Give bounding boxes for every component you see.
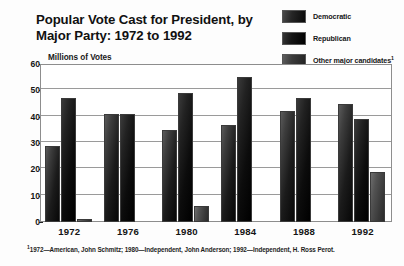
bar-group — [40, 64, 99, 222]
footnote-text: 1972—American, John Schmitz; 1980—Indepe… — [30, 246, 335, 253]
bar — [221, 125, 236, 222]
y-tick-label: 30 — [16, 138, 40, 148]
y-tick-label: 0 — [16, 217, 40, 227]
chart-title-line1: Popular Vote Cast for President, by — [36, 12, 266, 28]
title-block: Popular Vote Cast for President, by Majo… — [36, 12, 266, 43]
chart-figure: Popular Vote Cast for President, by Majo… — [0, 0, 404, 266]
bar — [296, 98, 311, 222]
bar-group — [333, 64, 392, 222]
bar-group — [275, 64, 334, 222]
bar-group — [99, 64, 158, 222]
y-axis-title: Millions of Votes — [48, 53, 112, 62]
bar — [77, 219, 92, 222]
bar — [104, 114, 119, 222]
bar-group — [157, 64, 216, 222]
plot-area-wrapper — [40, 64, 392, 222]
chart-footnote: 11972—American, John Schmitz; 1980—Indep… — [27, 244, 335, 253]
bar — [338, 104, 353, 223]
x-tick-label: 1980 — [176, 226, 198, 237]
legend-item-democratic: Democratic — [282, 8, 402, 24]
legend-swatch-democratic — [282, 10, 306, 23]
bar — [61, 98, 76, 222]
bar-group — [216, 64, 275, 222]
x-tick-label: 1992 — [352, 226, 374, 237]
x-tick-label: 1972 — [58, 226, 80, 237]
bar — [45, 146, 60, 222]
y-tick-label: 50 — [16, 85, 40, 95]
x-tick-label: 1988 — [293, 226, 315, 237]
bar — [178, 93, 193, 222]
y-tick-mark — [39, 222, 43, 223]
bar — [120, 114, 135, 222]
legend-label-republican: Republican — [313, 34, 351, 43]
y-tick-label: 10 — [16, 191, 40, 201]
bar — [280, 111, 295, 222]
y-tick-label: 20 — [16, 164, 40, 174]
x-axis-labels: 197219761980198419881992 — [40, 226, 392, 240]
x-tick-label: 1984 — [234, 226, 256, 237]
chart-title-line2: Major Party: 1972 to 1992 — [36, 28, 266, 44]
bar — [162, 130, 177, 222]
y-tick-label: 60 — [16, 59, 40, 69]
legend-footnote-marker: 1 — [391, 55, 394, 61]
legend-item-republican: Republican — [282, 30, 402, 46]
y-tick-label: 40 — [16, 112, 40, 122]
x-tick-label: 1976 — [117, 226, 139, 237]
bars-layer — [40, 64, 392, 222]
legend-label-democratic: Democratic — [313, 12, 351, 21]
bar — [354, 119, 369, 222]
y-axis: 0102030405060 — [4, 64, 40, 222]
legend-swatch-republican — [282, 32, 306, 45]
bar — [237, 77, 252, 222]
bar — [194, 206, 209, 222]
bar — [370, 172, 385, 222]
